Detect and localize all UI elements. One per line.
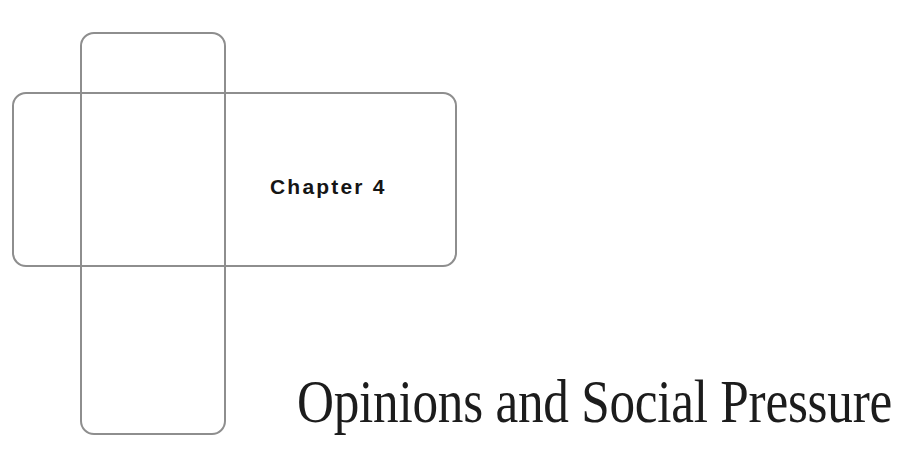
chapter-opening-page: Chapter 4 Opinions and Social Pressure [0, 0, 899, 469]
chapter-title: Opinions and Social Pressure [297, 371, 892, 432]
horizontal-rounded-frame [12, 92, 457, 267]
chapter-number-label: Chapter 4 [270, 176, 387, 197]
